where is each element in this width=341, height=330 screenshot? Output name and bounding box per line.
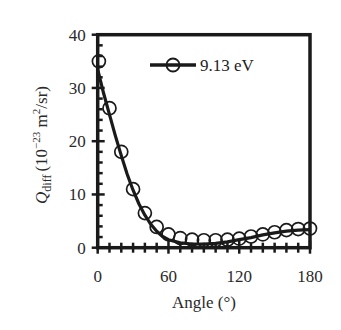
y-tick-label: 0 <box>77 239 86 258</box>
chart: 010203040 060120180 9.13 eV Angle (°) Qd… <box>0 0 341 330</box>
y-axis-title-sub: diff <box>40 175 54 192</box>
legend-label: 9.13 eV <box>200 56 255 75</box>
x-tick-label: 180 <box>297 267 323 286</box>
x-tick-label: 0 <box>93 267 102 286</box>
y-tick-label: 20 <box>69 132 86 151</box>
legend: 9.13 eV <box>150 56 255 75</box>
y-axis-title-unit-pre: (10 <box>32 149 51 172</box>
x-tick-label: 120 <box>226 267 252 286</box>
y-axis-title-sup1: −23 <box>30 131 42 149</box>
y-tick-label: 40 <box>69 26 86 45</box>
x-axis-title: Angle (°) <box>172 293 236 312</box>
y-axis-title-unit-mid: m <box>32 114 51 131</box>
y-tick-label: 30 <box>69 79 86 98</box>
svg-text:Qdiff(10−23 m2/sr): Qdiff(10−23 m2/sr) <box>30 86 54 204</box>
y-tick-label: 10 <box>69 185 86 204</box>
y-axis-title-unit-post: /sr) <box>32 86 51 109</box>
y-axis-title-main: Q <box>32 192 51 204</box>
data-markers <box>92 55 316 247</box>
fit-curve <box>98 69 310 244</box>
x-tick-label: 60 <box>160 267 177 286</box>
y-axis-title: Qdiff(10−23 m2/sr) <box>30 86 54 204</box>
